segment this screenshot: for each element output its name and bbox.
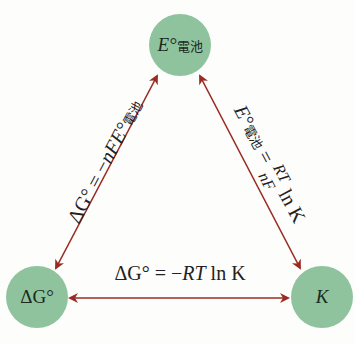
eq-prefix: ΔG° = − <box>114 262 182 284</box>
node-main: K <box>316 286 329 308</box>
node-gibbs-energy: ΔG° <box>6 266 68 328</box>
diagram-canvas: E°電池 ΔG° K ΔG° = −nFE°電池 E°電池 = RTnF ln … <box>0 0 355 344</box>
node-main: ΔG° <box>20 286 54 308</box>
node-sub: 電池 <box>177 39 203 54</box>
node-main: E° <box>157 34 176 55</box>
edge-label-bottom: ΔG° = −RT ln K <box>95 262 265 285</box>
eq-tail: ln K <box>206 262 246 284</box>
node-cell-potential: E°電池 <box>149 14 211 76</box>
eq-var: RT <box>182 262 205 284</box>
node-equilibrium-constant: K <box>291 266 353 328</box>
